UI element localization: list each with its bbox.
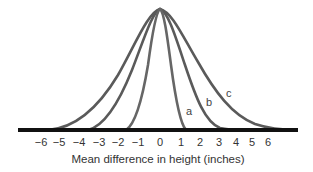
x-tick-label: 0 xyxy=(157,136,163,148)
x-axis-title: Mean difference in height (inches) xyxy=(71,153,244,165)
x-tick-label: −6 xyxy=(35,136,48,148)
x-tick-label: 6 xyxy=(265,136,271,148)
x-tick-label: −2 xyxy=(112,136,125,148)
x-tick-label: 3 xyxy=(216,136,222,148)
x-tick-labels: −6 −5 −4 −3 −2 −1 0 1 2 3 4 5 6 xyxy=(35,136,271,148)
x-tick-label: 5 xyxy=(249,136,255,148)
x-tick-label: 2 xyxy=(197,136,203,148)
x-tick-label: 4 xyxy=(233,136,239,148)
x-axis-baseline xyxy=(18,128,298,132)
x-tick-label: −3 xyxy=(93,136,106,148)
x-tick-label: 1 xyxy=(178,136,184,148)
x-tick-label: −4 xyxy=(73,136,86,148)
curve-label-c: c xyxy=(226,87,232,99)
curve-label-b: b xyxy=(206,96,212,108)
chart: −6 −5 −4 −3 −2 −1 0 1 2 3 4 5 6 Mean dif… xyxy=(0,0,313,172)
curve-label-a: a xyxy=(186,105,193,117)
x-tick-label: −1 xyxy=(132,136,145,148)
x-tick-label: −5 xyxy=(53,136,66,148)
